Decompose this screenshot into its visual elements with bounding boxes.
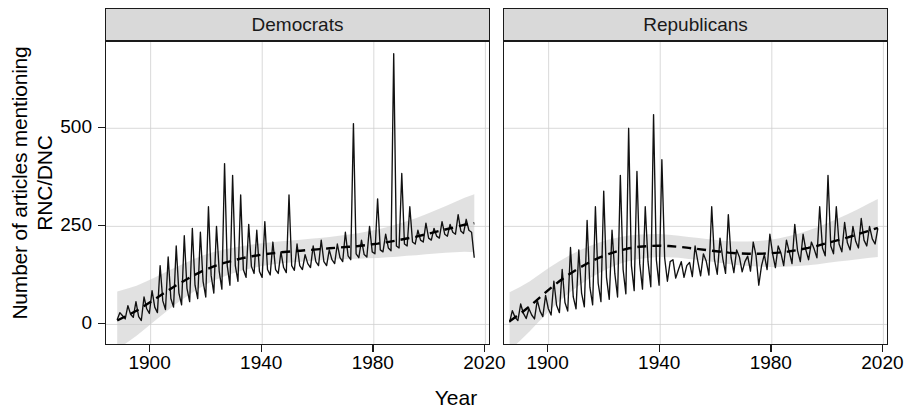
x-tick-mark [149, 345, 150, 352]
x-tick-mark [261, 345, 262, 352]
x-tick-label-1940: 1940 [638, 352, 680, 374]
x-tick-label-1940: 1940 [240, 352, 282, 374]
y-tick-mark [98, 225, 105, 226]
plot-svg [106, 42, 490, 345]
x-tick-mark [372, 345, 373, 352]
facetted-line-chart: Number of articles mentioning RNC/DNC 0 … [0, 0, 912, 415]
panel-strip-label: Republicans [643, 14, 748, 36]
confidence-ribbon [117, 194, 474, 345]
gridlines [504, 42, 888, 345]
x-tick-label-1900: 1900 [526, 352, 568, 374]
y-tick-label-250: 250 [60, 214, 92, 236]
panel-strip-democrats: Democrats [105, 8, 490, 41]
x-tick-label-1980: 1980 [750, 352, 792, 374]
x-tick-mark [882, 345, 883, 352]
y-tick-mark [98, 127, 105, 128]
x-tick-mark [770, 345, 771, 352]
panel-strip-label: Democrats [252, 14, 344, 36]
y-axis-ticks: 0 250 500 [40, 0, 92, 415]
plot-area-republicans [503, 41, 888, 345]
x-axis-label: Year [0, 386, 912, 410]
x-tick-label-2020: 2020 [463, 352, 505, 374]
x-tick-label-2020: 2020 [861, 352, 903, 374]
y-tick-label-500: 500 [60, 116, 92, 138]
plot-svg [504, 42, 888, 345]
y-tick-mark [98, 323, 105, 324]
x-tick-label-1900: 1900 [128, 352, 170, 374]
x-tick-mark [547, 345, 548, 352]
x-tick-mark [659, 345, 660, 352]
x-tick-label-1980: 1980 [352, 352, 394, 374]
x-tick-mark [484, 345, 485, 352]
y-tick-label-0: 0 [81, 312, 92, 334]
panel-strip-republicans: Republicans [503, 8, 888, 41]
confidence-ribbon [510, 199, 878, 345]
plot-area-democrats [105, 41, 490, 345]
